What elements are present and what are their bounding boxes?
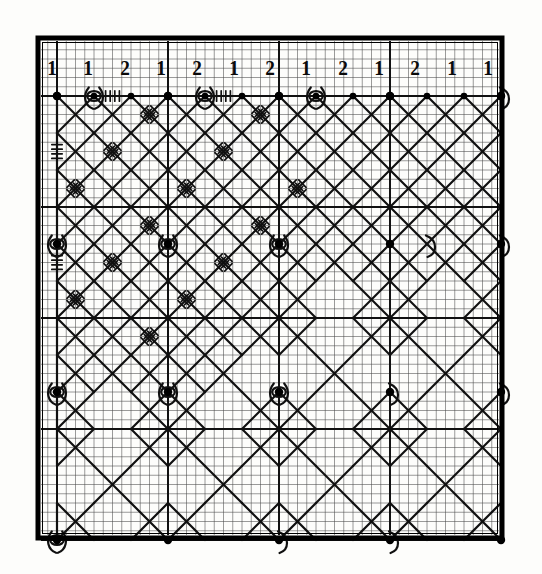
lattice-dot	[164, 240, 172, 248]
lattice-dot	[202, 93, 209, 100]
lattice-dot	[386, 388, 394, 396]
lattice-dot	[386, 92, 394, 100]
lattice-dot	[128, 93, 135, 100]
lattice-dot	[91, 93, 98, 100]
lattice-dot	[275, 388, 283, 396]
lattice-dot	[424, 93, 431, 100]
lattice-dot	[164, 388, 172, 396]
lattice-dot	[239, 93, 246, 100]
diagram-canvas: 1121212121211	[0, 0, 542, 574]
fine-grid	[41, 41, 499, 535]
lattice-dot	[275, 240, 283, 248]
lattice-dot	[386, 240, 394, 248]
lattice-dot	[350, 93, 357, 100]
lattice-dot	[461, 93, 468, 100]
lattice-dot	[313, 93, 320, 100]
lattice-dot	[164, 92, 172, 100]
lattice-dot	[53, 388, 61, 396]
lattice-dot	[275, 92, 283, 100]
lattice-dot	[53, 92, 61, 100]
lattice-dot	[53, 240, 61, 248]
lattice-figure	[0, 0, 542, 574]
